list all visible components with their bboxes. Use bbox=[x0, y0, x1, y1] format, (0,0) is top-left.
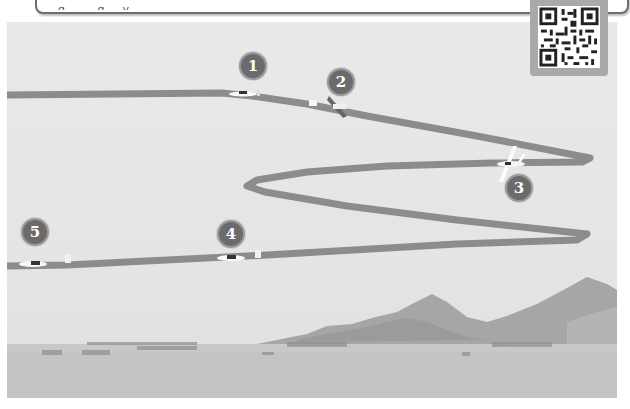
marker-label: 2 bbox=[336, 73, 346, 91]
marker-3: 3 bbox=[505, 174, 533, 202]
marker-label: 1 bbox=[248, 57, 258, 75]
marker-4: 4 bbox=[217, 220, 245, 248]
scene-graphics bbox=[7, 22, 617, 398]
flight-illustration: 1 2 3 4 5 bbox=[7, 22, 617, 398]
marker-2: 2 bbox=[327, 68, 355, 96]
mountains bbox=[257, 277, 617, 347]
qr-code-icon bbox=[538, 6, 600, 68]
marker-label: 3 bbox=[514, 179, 524, 197]
qr-code-frame bbox=[530, 0, 608, 76]
marker-5: 5 bbox=[21, 218, 49, 246]
caption-text: …g … … g … y … bbox=[47, 4, 143, 10]
marker-1: 1 bbox=[239, 52, 267, 80]
marker-label: 5 bbox=[30, 223, 40, 241]
marker-label: 4 bbox=[226, 225, 236, 243]
qr-code bbox=[538, 6, 600, 68]
